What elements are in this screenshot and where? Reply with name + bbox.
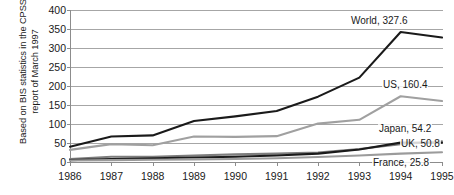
x-axis-tick-labels: 1986198719881989199019911992199319941995 bbox=[70, 170, 442, 190]
x-tick-mark bbox=[359, 162, 360, 166]
x-tick-mark bbox=[194, 162, 195, 166]
x-tick-mark bbox=[318, 162, 319, 166]
series-end-label-us: US, 160.4 bbox=[382, 79, 428, 90]
y-tick-label: 200 bbox=[30, 80, 66, 92]
y-tick-label: 300 bbox=[30, 42, 66, 54]
x-tick-label: 1987 bbox=[100, 170, 123, 182]
x-tick-mark bbox=[235, 162, 236, 166]
series-end-label-japan: Japan, 54.2 bbox=[378, 123, 432, 134]
y-tick-label: 50 bbox=[30, 137, 66, 149]
x-tick-label: 1988 bbox=[141, 170, 164, 182]
y-tick-label: 150 bbox=[30, 99, 66, 111]
x-tick-label: 1986 bbox=[58, 170, 81, 182]
x-tick-mark bbox=[70, 162, 71, 166]
x-tick-label: 1992 bbox=[306, 170, 329, 182]
y-tick-label: 0 bbox=[30, 156, 66, 168]
x-tick-mark bbox=[442, 162, 443, 166]
x-tick-mark bbox=[111, 162, 112, 166]
x-tick-label: 1990 bbox=[224, 170, 247, 182]
series-end-label-world: World, 327.6 bbox=[350, 15, 409, 26]
y-tick-label: 350 bbox=[30, 23, 66, 35]
y-tick-label: 400 bbox=[30, 4, 66, 16]
y-axis-tick-labels: 050100150200250300350400 bbox=[30, 0, 66, 172]
y-tick-label: 100 bbox=[30, 118, 66, 130]
x-tick-mark bbox=[277, 162, 278, 166]
series-end-label-uk: UK, 50.8 bbox=[400, 138, 441, 149]
series-end-label-france: France, 25.8 bbox=[372, 157, 430, 168]
x-tick-label: 1994 bbox=[389, 170, 412, 182]
x-tick-label: 1993 bbox=[348, 170, 371, 182]
y-tick-label: 250 bbox=[30, 61, 66, 73]
x-tick-label: 1989 bbox=[182, 170, 205, 182]
x-tick-label: 1991 bbox=[265, 170, 288, 182]
x-tick-label: 1995 bbox=[430, 170, 453, 182]
x-tick-mark bbox=[153, 162, 154, 166]
